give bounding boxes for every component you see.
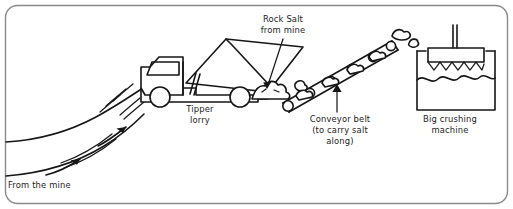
diagram-canvas: Rock Salt from mine Tipper lorry Conveyo… bbox=[0, 0, 513, 209]
label-from-the-mine: From the mine bbox=[8, 180, 71, 190]
label-crushing-machine-line1: Big crushing bbox=[423, 114, 477, 124]
process-diagram: Rock Salt from mine Tipper lorry Conveyo… bbox=[0, 0, 513, 209]
label-conveyor-belt-line2: (to carry salt bbox=[312, 125, 368, 135]
label-tipper-lorry-line2: lorry bbox=[190, 115, 210, 125]
label-conveyor-belt-line3: along) bbox=[326, 136, 353, 146]
label-rock-salt-line2: from mine bbox=[261, 25, 305, 35]
label-crushing-machine-line2: machine bbox=[431, 125, 468, 135]
label-conveyor-belt-line1: Conveyor belt bbox=[310, 114, 371, 124]
conveyor-belt bbox=[283, 30, 419, 112]
road-from-mine bbox=[6, 84, 146, 176]
label-tipper-lorry-line1: Tipper bbox=[185, 104, 214, 114]
big-crushing-machine bbox=[417, 25, 495, 110]
label-rock-salt-line1: Rock Salt bbox=[263, 14, 304, 24]
diagram-border bbox=[6, 6, 508, 204]
